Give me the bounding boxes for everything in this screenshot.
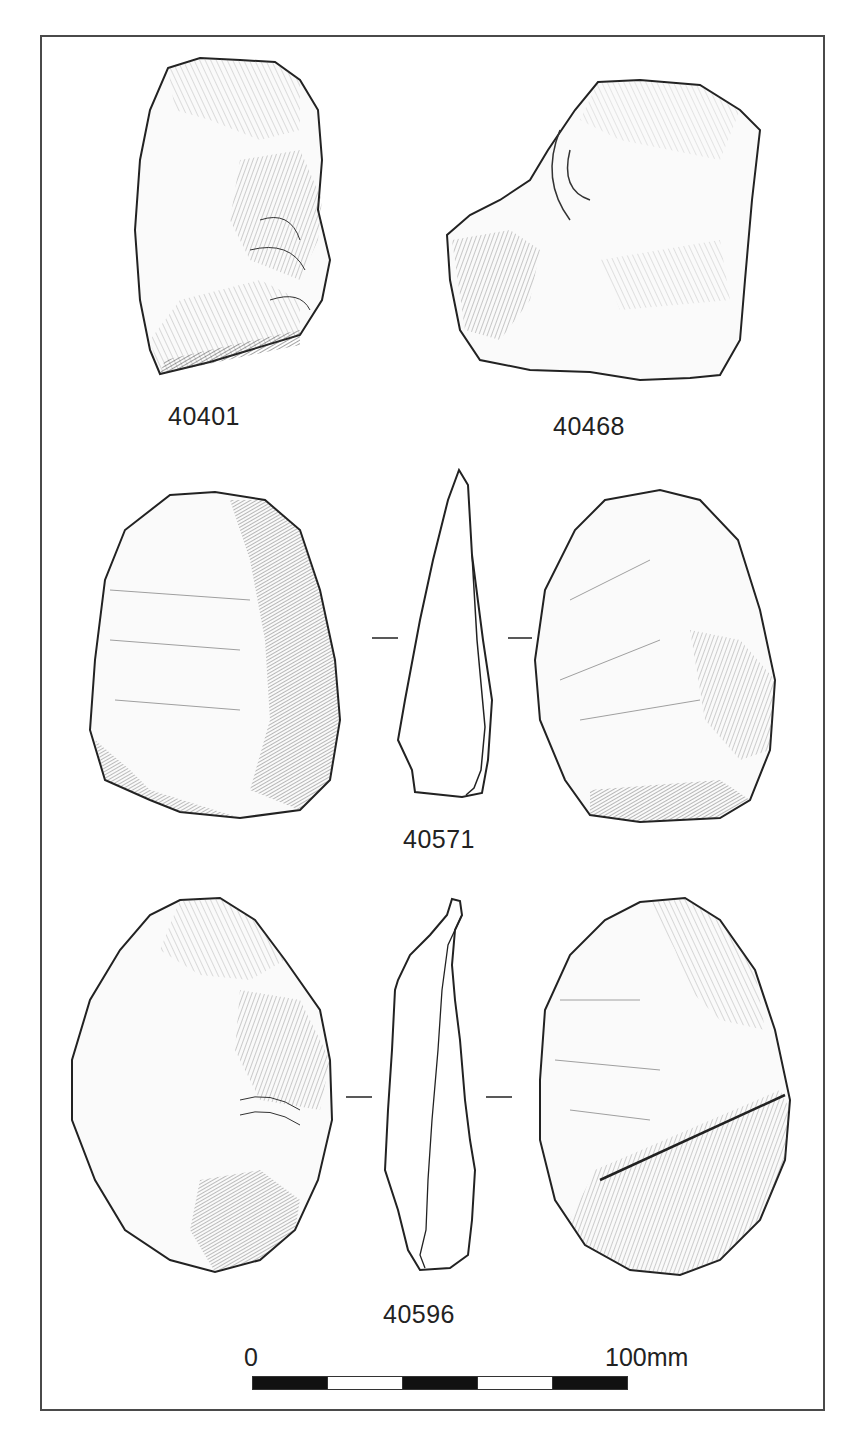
scale-segment-1 [252, 1376, 328, 1390]
scale-segment-4 [477, 1376, 553, 1390]
artifact-label-40571: 40571 [403, 825, 475, 854]
artifact-40596-section-drawing [385, 899, 475, 1270]
scale-segment-3 [402, 1376, 478, 1390]
scale-segment-5 [552, 1376, 628, 1390]
artifact-40401-drawing [135, 58, 330, 374]
artifact-40468-drawing [447, 80, 760, 380]
scale-start-label: 0 [244, 1343, 258, 1372]
artifact-40596-face-a-drawing [72, 898, 332, 1272]
artifact-40571-section-drawing [398, 470, 492, 797]
artifact-label-40468: 40468 [553, 412, 625, 441]
artifact-40596-face-b-drawing [540, 898, 790, 1275]
artifact-label-40401: 40401 [168, 402, 240, 431]
artifact-40571-face-a-drawing [90, 492, 340, 818]
scale-segment-2 [327, 1376, 403, 1390]
artifact-drawings [0, 0, 858, 1456]
artifact-40571-face-b-drawing [535, 490, 775, 822]
artifact-label-40596: 40596 [383, 1300, 455, 1329]
scale-end-label: 100mm [605, 1343, 688, 1372]
